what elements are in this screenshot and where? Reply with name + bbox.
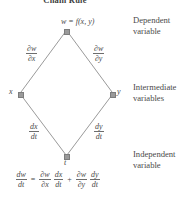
fraction-denominator: dt: [29, 131, 39, 141]
fraction-denominator: ∂x: [26, 53, 37, 63]
category-label-dependent: Dependent variable: [133, 15, 170, 36]
category-label-intermediate-line2: variables: [133, 93, 176, 104]
fraction-denominator: ∂y: [93, 53, 104, 63]
edge-label-dw-dx: ∂w ∂x: [26, 44, 37, 63]
fraction-numerator: dy: [90, 170, 100, 179]
chain-rule-equation: dw dt = ∂w ∂x dx dt + ∂w ∂y dy dt: [14, 170, 134, 189]
edge-label-dx-dt: dx dt: [29, 122, 39, 141]
chain-rule-diagram: Chain Rule w = f(x, y) x y t ∂w ∂x ∂w ∂y…: [0, 0, 195, 205]
fraction-numerator: dw: [16, 170, 27, 179]
equation-term2-derivative: dy dt: [90, 170, 100, 189]
category-label-dependent-line1: Dependent: [133, 15, 170, 26]
edge-label-dw-dy: ∂w ∂y: [93, 44, 104, 63]
equation-term1-partial: ∂w ∂x: [39, 170, 50, 189]
category-label-intermediate: Intermediate variables: [133, 82, 176, 103]
plus-sign: +: [67, 175, 72, 184]
edge-right-bottom: [67, 95, 112, 155]
equation-term1-derivative: dx dt: [54, 170, 64, 189]
fraction-numerator: dx: [29, 122, 39, 131]
fraction-denominator: dt: [94, 131, 104, 141]
fraction-numerator: ∂w: [26, 44, 37, 53]
equation-lhs-fraction: dw dt: [16, 170, 27, 189]
node-label-top: w = f(x, y): [61, 17, 94, 26]
edge-top-right: [67, 31, 112, 92]
fraction-numerator: ∂w: [93, 44, 104, 53]
equals-sign: =: [31, 175, 36, 184]
category-label-independent-line1: Independent: [133, 149, 175, 160]
fraction-denominator: dt: [90, 179, 100, 189]
edge-label-dy-dt: dy dt: [94, 122, 104, 141]
edge-left-bottom: [21, 95, 66, 155]
fraction-numerator: dx: [54, 170, 64, 179]
node-marker-left: [18, 92, 24, 98]
node-marker-right: [110, 92, 116, 98]
category-label-dependent-line2: variable: [133, 26, 170, 37]
equation-term2-partial: ∂w ∂y: [76, 170, 87, 189]
fraction-numerator: ∂w: [39, 170, 50, 179]
node-label-left: x: [9, 87, 13, 96]
category-label-intermediate-line1: Intermediate: [133, 82, 176, 93]
category-label-independent: Independent variable: [133, 149, 175, 170]
fraction-denominator: ∂x: [39, 179, 50, 189]
fraction-denominator: dt: [54, 179, 64, 189]
fraction-numerator: dy: [94, 122, 104, 131]
node-marker-top: [64, 29, 70, 35]
fraction-numerator: ∂w: [76, 170, 87, 179]
fraction-denominator: ∂y: [76, 179, 87, 189]
fraction-denominator: dt: [16, 179, 27, 189]
node-label-bottom: t: [64, 158, 66, 167]
node-label-right: y: [117, 87, 121, 96]
category-label-independent-line2: variable: [133, 160, 175, 171]
